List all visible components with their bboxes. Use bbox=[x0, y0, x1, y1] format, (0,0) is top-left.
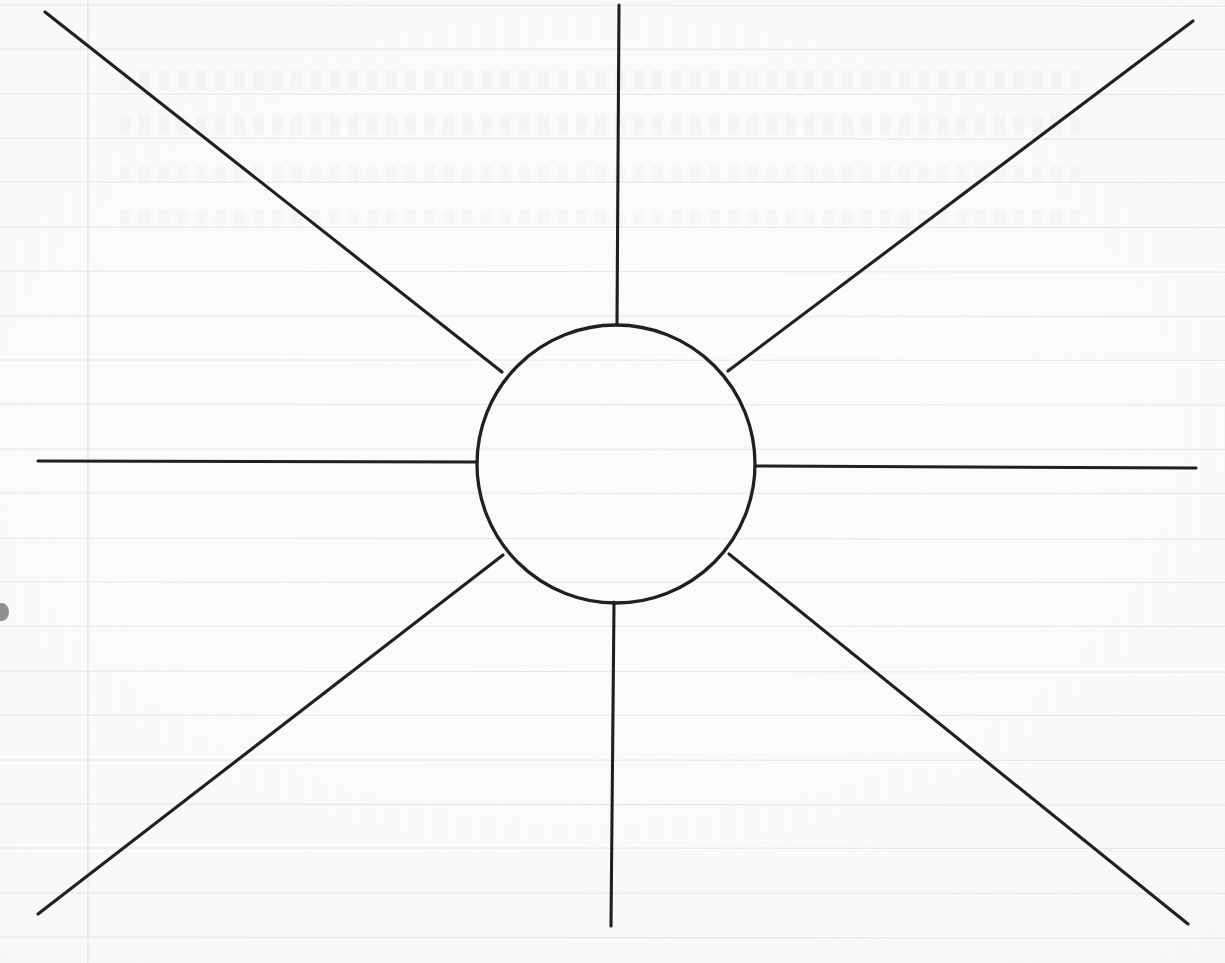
ruled-line bbox=[0, 5, 1225, 6]
ray-group bbox=[38, 5, 1196, 926]
ruled-line bbox=[0, 538, 1225, 539]
diagram-canvas bbox=[0, 0, 1225, 963]
ray-northeast[interactable] bbox=[728, 21, 1193, 371]
ruled-line bbox=[0, 271, 1225, 272]
ruled-line bbox=[0, 404, 1225, 405]
ray-southwest[interactable] bbox=[38, 555, 503, 914]
notebook-page: Blank hand-drawn radial diagram: one cen… bbox=[0, 0, 1225, 963]
ray-southeast[interactable] bbox=[729, 554, 1188, 924]
ray-south[interactable] bbox=[611, 602, 614, 926]
ray-west[interactable] bbox=[38, 461, 477, 462]
center-circle[interactable] bbox=[477, 325, 755, 603]
ray-north[interactable] bbox=[617, 5, 619, 325]
ink-blot-artifact bbox=[0, 603, 9, 621]
ruled-line bbox=[0, 937, 1225, 938]
ray-northwest[interactable] bbox=[45, 12, 502, 372]
ray-east[interactable] bbox=[755, 466, 1196, 468]
ruled-line bbox=[0, 138, 1225, 139]
